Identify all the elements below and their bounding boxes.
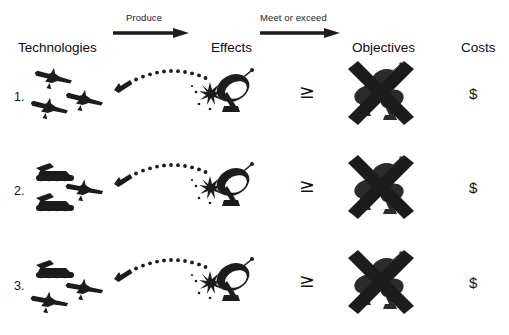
meet-or-exceed-arrow	[260, 26, 340, 40]
effects-group	[112, 251, 257, 313]
effects-group	[112, 156, 257, 218]
comparator-symbol: ≥	[299, 269, 315, 291]
crossed-out-radar-cluster-icon	[344, 153, 418, 225]
row-number: 3.	[14, 279, 24, 293]
column-header-effects: Effects	[211, 40, 252, 55]
column-header-technologies: Technologies	[18, 40, 97, 55]
jet-aircraft-icon	[30, 64, 108, 122]
technologies-group-row3	[30, 255, 108, 315]
dotted-trajectory-icon	[134, 258, 207, 270]
radar-dish-icon	[212, 257, 254, 301]
missile-icon	[114, 80, 133, 93]
cost-value: $	[469, 274, 477, 291]
tracked-vehicle-icon	[36, 260, 74, 278]
cost-value: $	[469, 179, 477, 196]
jet-aircraft-icon	[63, 276, 104, 304]
produce-arrow	[113, 26, 189, 40]
effects-group	[112, 62, 257, 124]
jet-aircraft-icon	[28, 289, 69, 317]
missile-icon	[114, 174, 133, 187]
column-header-costs: Costs	[461, 40, 496, 55]
crossed-out-radar-cluster-icon	[344, 248, 418, 320]
crossed-out-radar-cluster-icon	[344, 59, 418, 131]
dotted-trajectory-icon	[134, 163, 207, 175]
comparator-symbol: ≥	[299, 80, 315, 102]
row-number: 2.	[14, 184, 24, 198]
meet-or-exceed-arrow-label: Meet or exceed	[260, 12, 327, 23]
capability-mapping-diagram: Produce Meet or exceed Technologies Effe…	[0, 0, 509, 335]
radar-dish-icon	[212, 162, 254, 206]
row-number: 1.	[14, 90, 24, 104]
tracked-vehicle-icon	[36, 163, 74, 181]
comparator-symbol: ≥	[299, 174, 315, 196]
produce-arrow-label: Produce	[126, 12, 162, 23]
missile-icon	[114, 269, 133, 282]
cost-value: $	[469, 85, 477, 102]
column-header-objectives: Objectives	[352, 40, 415, 55]
tracked-vehicle-icon	[36, 193, 74, 211]
dotted-trajectory-icon	[134, 69, 207, 81]
radar-dish-icon	[212, 68, 254, 112]
technologies-group-row2	[30, 158, 108, 216]
